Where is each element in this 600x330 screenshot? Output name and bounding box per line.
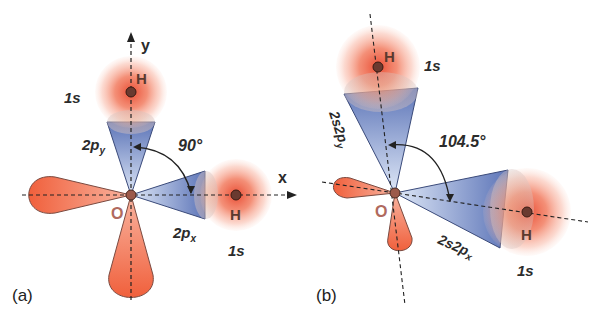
o-label: O (111, 205, 123, 222)
h-label-top: H (136, 70, 147, 87)
orbital-label-1s-right: 1s (228, 242, 245, 259)
h-label-right: H (230, 206, 241, 223)
o-label: O (375, 203, 387, 220)
orbital-label-2py-sub: y (99, 145, 106, 156)
panel-label-a: (a) (12, 286, 33, 305)
orbital-label-2px: 2px (172, 224, 197, 244)
orbital-label-2px-main: 2p (172, 224, 191, 241)
panel-label-b: (b) (316, 286, 337, 305)
oxygen-atom (126, 190, 136, 200)
bond-angle-label: 104.5° (439, 133, 486, 150)
orbital-label-2py-main: 2p (81, 136, 100, 153)
orbital-label-2s2px: 2s2px (434, 231, 477, 263)
x-axis-arrow-icon (287, 191, 297, 199)
orbital-label-1s-top: 1s (64, 89, 81, 106)
orbital-label-2px-sub: x (190, 233, 197, 244)
y-axis-label: y (141, 37, 150, 54)
panel-b: H H O 1s 1s 104.5° 2s2py 2s2px (b) (316, 14, 588, 305)
hybrid-lobe-left (333, 178, 395, 198)
orbital-label-2s2py-main: 2s2p (326, 108, 352, 145)
panel-a: y x H H O 1s 1s 2py 2px 90° (a) (12, 32, 297, 305)
hybrid-lobe-bottom (388, 193, 412, 251)
y-axis-arrow-icon (127, 32, 135, 42)
oxygen-atom (390, 188, 400, 198)
orbital-label-1s-right: 1s (517, 262, 534, 279)
orbital-label-2py: 2py (81, 136, 106, 156)
orbital-diagram: y x H H O 1s 1s 2py 2px 90° (a) (0, 0, 600, 330)
hydrogen-atom-top (126, 87, 136, 97)
h-label-right: H (521, 226, 532, 243)
orbital-label-2s2py: 2s2py (324, 108, 353, 151)
orbital-label-1s-top: 1s (424, 57, 441, 74)
hydrogen-atom-right (231, 190, 241, 200)
hydrogen-atom-top (373, 62, 383, 72)
h-label-top: H (384, 48, 395, 65)
hydrogen-atom-right (522, 207, 532, 217)
bond-angle-label: 90° (178, 137, 203, 154)
x-axis-label: x (278, 169, 287, 186)
